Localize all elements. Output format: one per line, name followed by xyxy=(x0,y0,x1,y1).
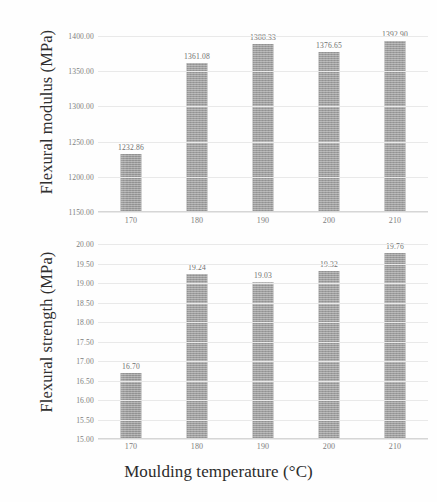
bar-slot: 1376.65 xyxy=(296,36,362,212)
chart-flexural-strength: Flexural strength (MPa) 20.0019.5019.001… xyxy=(0,232,437,442)
x-axis-tick-label: 180 xyxy=(191,442,204,451)
bar-value-label: 1232.86 xyxy=(118,143,144,152)
gridline xyxy=(98,106,428,107)
bar-value-label: 16.70 xyxy=(122,362,140,371)
y-axis-tick-label: 17.00 xyxy=(76,357,94,366)
x-axis-tick-label: 180 xyxy=(191,216,204,225)
gridline xyxy=(98,244,428,245)
y-axis-tick-label: 17.50 xyxy=(76,337,94,346)
gridline xyxy=(98,303,428,304)
bar[interactable] xyxy=(121,154,142,212)
y-axis-tick-label: 1350.00 xyxy=(68,67,94,76)
x-axis-tick-label: 190 xyxy=(257,442,270,451)
bar[interactable] xyxy=(187,274,208,439)
bar[interactable] xyxy=(187,63,208,212)
bar-value-label: 1388.33 xyxy=(250,33,276,42)
gridline xyxy=(98,264,428,265)
y-axis-tick-label: 20.00 xyxy=(76,240,94,249)
x-axis-tick-label: 190 xyxy=(257,216,270,225)
y-axis-title-modulus: Flexural modulus (MPa) xyxy=(37,17,57,207)
bar[interactable] xyxy=(319,271,340,439)
plot-area-strength: 16.7019.2419.0319.3219.76 xyxy=(98,244,428,439)
y-axis-tick-label: 1300.00 xyxy=(68,102,94,111)
figure-canvas: Flexural modulus (MPa) 1400.001350.00130… xyxy=(0,0,437,502)
x-axis-tick-label: 170 xyxy=(125,216,138,225)
x-axis-title: Moulding temperature (°C) xyxy=(0,462,437,482)
bar-slot: 1388.33 xyxy=(230,36,296,212)
y-axis-tick-label: 1200.00 xyxy=(68,172,94,181)
bar[interactable] xyxy=(319,52,340,212)
y-axis-tick-label: 15.50 xyxy=(76,415,94,424)
x-axis-tick-label: 170 xyxy=(125,442,138,451)
y-axis-tick-label: 18.50 xyxy=(76,298,94,307)
y-axis-tick-label: 19.50 xyxy=(76,259,94,268)
y-axis-tick-label: 15.00 xyxy=(76,435,94,444)
chart-flexural-modulus: Flexural modulus (MPa) 1400.001350.00130… xyxy=(0,14,437,232)
y-axis-tick-label: 1150.00 xyxy=(69,208,94,217)
gridline xyxy=(98,322,428,323)
bar-series-modulus: 1232.861361.081388.331376.651392.90 xyxy=(98,36,428,212)
bar-slot: 1392.90 xyxy=(362,36,428,212)
gridline xyxy=(98,342,428,343)
y-axis-tick-label: 16.50 xyxy=(76,376,94,385)
x-axis-tick-label: 200 xyxy=(323,442,336,451)
gridline xyxy=(98,142,428,143)
gridline xyxy=(98,36,428,37)
gridline xyxy=(98,283,428,284)
gridline xyxy=(98,381,428,382)
y-axis-tick-label: 16.00 xyxy=(76,396,94,405)
bar[interactable] xyxy=(121,373,142,439)
bar[interactable] xyxy=(385,41,406,212)
x-axis-tick-label: 210 xyxy=(389,216,402,225)
bar-value-label: 1361.08 xyxy=(184,52,210,61)
bar-value-label: 19.03 xyxy=(254,271,272,280)
gridline xyxy=(98,439,428,440)
y-axis-tick-label: 18.00 xyxy=(76,318,94,327)
plot-area-modulus: 1232.861361.081388.331376.651392.90 xyxy=(98,36,428,212)
bar-value-label: 1376.65 xyxy=(316,41,342,50)
bar[interactable] xyxy=(253,44,274,212)
gridline xyxy=(98,177,428,178)
y-axis-title-strength: Flexural strength (MPa) xyxy=(37,237,57,427)
y-axis-tick-label: 1400.00 xyxy=(68,32,94,41)
bar-slot: 1361.08 xyxy=(164,36,230,212)
x-axis-tick-label: 200 xyxy=(323,216,336,225)
gridline xyxy=(98,420,428,421)
gridline xyxy=(98,361,428,362)
x-axis-tick-label: 210 xyxy=(389,442,402,451)
bar-value-label: 1392.90 xyxy=(382,30,408,39)
gridline xyxy=(98,400,428,401)
y-axis-tick-label: 19.00 xyxy=(76,279,94,288)
y-axis-tick-label: 1250.00 xyxy=(68,137,94,146)
bar[interactable] xyxy=(385,253,406,439)
gridline xyxy=(98,71,428,72)
bar-slot: 1232.86 xyxy=(98,36,164,212)
gridline xyxy=(98,212,428,213)
